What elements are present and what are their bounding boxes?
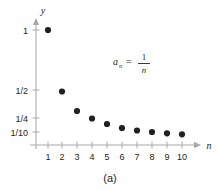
formula-denominator: n [142, 65, 147, 75]
y-tick-label: 1/10 [10, 128, 28, 138]
formula-numerator: 1 [142, 52, 147, 62]
data-point [149, 129, 155, 135]
x-tick-label: 3 [74, 152, 79, 162]
data-point [89, 115, 95, 121]
formula-equals-sign: = [126, 56, 132, 67]
y-tick-label: 1 [23, 26, 28, 36]
data-point [59, 88, 65, 94]
data-point [74, 108, 80, 114]
y-tick-labels: 1 1/2 1/4 1/10 [10, 26, 28, 138]
x-tick-label: 4 [89, 152, 94, 162]
x-axis-arrow-icon [194, 142, 201, 148]
y-axis-arrow-icon [33, 18, 39, 25]
data-point [164, 130, 170, 136]
y-axis-label: y [40, 5, 46, 16]
x-tick-label: 7 [134, 152, 139, 162]
x-tick-label: 5 [104, 152, 109, 162]
x-tick-labels: 1 2 3 4 5 6 7 8 9 10 [45, 152, 187, 162]
x-tick-label: 8 [149, 152, 154, 162]
formula-annotation: a n = 1 n [113, 52, 150, 75]
x-axis-label: n [207, 140, 212, 151]
x-tick-label: 2 [59, 152, 64, 162]
data-point [119, 125, 125, 131]
x-tick-label: 10 [177, 152, 187, 162]
figure-caption: (a) [103, 172, 116, 184]
plot-canvas: 1 2 3 4 5 6 7 8 9 10 1 1/2 1/4 1/10 y n [0, 0, 221, 190]
formula-variable: a [113, 56, 118, 67]
formula-subscript: n [119, 62, 122, 69]
sequence-plot-figure: 1 2 3 4 5 6 7 8 9 10 1 1/2 1/4 1/10 y n [0, 0, 221, 190]
x-tick-label: 1 [45, 152, 50, 162]
data-point [134, 127, 140, 133]
y-tick-label: 1/2 [15, 86, 28, 96]
data-point [45, 27, 51, 33]
data-point-series [45, 27, 185, 137]
x-tick-label: 9 [164, 152, 169, 162]
axes-group [30, 18, 201, 149]
y-tick-label: 1/4 [15, 114, 28, 124]
data-point [179, 131, 185, 137]
data-point [104, 121, 110, 127]
x-tick-label: 6 [119, 152, 124, 162]
